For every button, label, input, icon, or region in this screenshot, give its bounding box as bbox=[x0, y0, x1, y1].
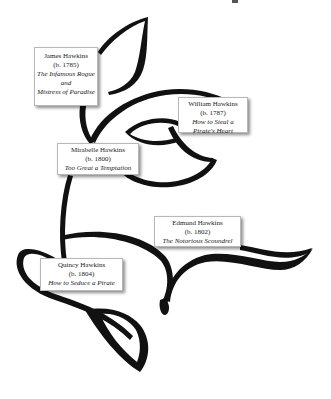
node-edmund-hawkins[interactable]: Edmund Hawkins (b. 1802) The Notorious S… bbox=[154, 216, 241, 247]
person-name: Edmund Hawkins bbox=[157, 219, 238, 228]
node-mirabelle-hawkins[interactable]: Mirabelle Hawkins (b. 1800) Too Great a … bbox=[57, 143, 139, 175]
book-title: How to Seduce a Pirate bbox=[43, 279, 120, 288]
person-name: James Hawkins bbox=[37, 52, 95, 61]
birth-year: (b. 1804) bbox=[43, 270, 120, 279]
birth-year: (b. 1785) bbox=[37, 61, 95, 70]
person-name: Quincy Hawkins bbox=[43, 261, 120, 270]
book-title: How to Steal a Pirate's Heart bbox=[181, 118, 245, 136]
birth-year: (b. 1802) bbox=[157, 228, 238, 237]
person-name: William Hawkins bbox=[181, 100, 245, 109]
node-william-hawkins[interactable]: William Hawkins (b. 1787) How to Steal a… bbox=[178, 97, 248, 133]
book-title: The Infamous Rogue bbox=[37, 70, 95, 79]
book-title: The Notorious Scoundrel bbox=[157, 237, 238, 246]
node-james-hawkins[interactable]: James Hawkins (b. 1785) The Infamous Rog… bbox=[34, 47, 98, 106]
person-name: Mirabelle Hawkins bbox=[60, 146, 136, 155]
node-quincy-hawkins[interactable]: Quincy Hawkins (b. 1804) How to Seduce a… bbox=[40, 258, 123, 291]
birth-year: (b. 1787) bbox=[181, 109, 245, 118]
birth-year: (b. 1800) bbox=[60, 155, 136, 164]
book-title: Too Great a Temptation bbox=[60, 164, 136, 173]
conjunction: and bbox=[37, 79, 95, 88]
book-title: Mistress of Paradise bbox=[37, 88, 95, 97]
